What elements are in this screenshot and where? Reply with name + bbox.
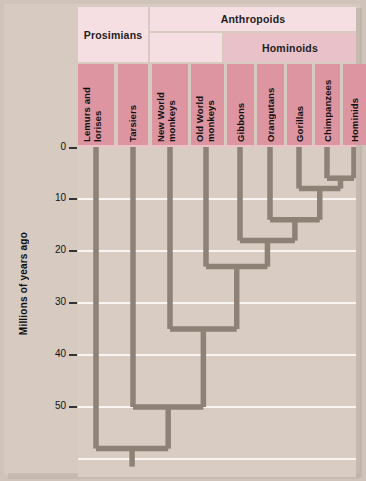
y-axis-title: Millions of years ago (18, 232, 29, 335)
taxon-label-owmonkeys: Old World monkeys (194, 72, 216, 142)
phylogenetic-tree (78, 145, 356, 477)
taxon-label-nwmonkeys: New World monkeys (155, 72, 177, 142)
y-tick-label-40: 40 (40, 348, 66, 359)
group-band-prosimians: Prosimians (78, 7, 148, 62)
y-tick-mark-50 (69, 406, 77, 408)
taxon-label-hominids: Hominids (349, 82, 360, 142)
taxon-label-lemurs: Lemurs and lorises (81, 68, 103, 142)
y-tick-mark-40 (69, 354, 77, 356)
figure-root: Prosimians Anthropoids Hominoids Lemurs … (0, 0, 366, 481)
y-tick-mark-20 (69, 250, 77, 252)
y-tick-label-50: 50 (40, 400, 66, 411)
taxon-label-tarsiers: Tarsiers (127, 90, 138, 142)
y-tick-label-20: 20 (40, 244, 66, 255)
taxon-label-gibbons: Gibbons (235, 88, 246, 142)
taxon-label-orangutans: Orangutans (265, 76, 276, 142)
y-tick-label-30: 30 (40, 296, 66, 307)
group-label-anthropoids: Anthropoids (221, 13, 286, 25)
taxon-label-chimps: Chimpanzees (322, 68, 333, 142)
y-tick-mark-10 (69, 198, 77, 200)
y-tick-label-0: 0 (40, 141, 66, 152)
y-tick-mark-30 (69, 302, 77, 304)
anthropoids-band-fill (150, 33, 222, 62)
taxon-label-gorillas: Gorillas (294, 90, 305, 142)
group-label-prosimians: Prosimians (84, 29, 143, 41)
group-label-hominoids: Hominoids (262, 42, 318, 54)
y-tick-mark-0 (69, 147, 77, 149)
group-band-anthropoids: Anthropoids (150, 7, 356, 31)
group-band-hominoids: Hominoids (224, 33, 356, 62)
y-tick-label-10: 10 (40, 192, 66, 203)
